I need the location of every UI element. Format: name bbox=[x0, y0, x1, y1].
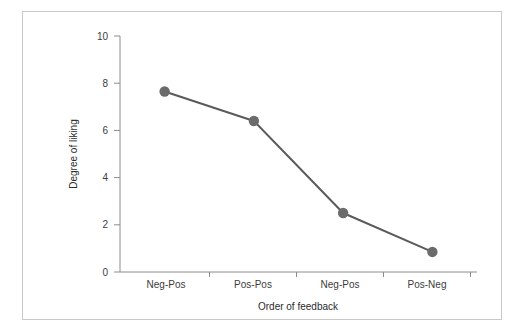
data-series-markers bbox=[159, 86, 437, 257]
x-tick-label-1: Neg-Pos bbox=[147, 279, 186, 290]
x-axis-title: Order of feedback bbox=[258, 301, 339, 312]
y-tick-label-0: 0 bbox=[102, 267, 108, 278]
y-tick-label-2: 2 bbox=[102, 219, 108, 230]
x-tick-label-2: Pos-Pos bbox=[234, 279, 272, 290]
y-axis-ticks bbox=[114, 36, 120, 272]
y-tick-label-4: 4 bbox=[102, 172, 108, 183]
line-chart-plot: 10 8 6 4 2 0 Neg-Pos Pos-Pos Neg-Pos Pos… bbox=[0, 0, 523, 335]
data-point-marker bbox=[427, 247, 437, 257]
x-axis-ticks bbox=[210, 272, 471, 277]
data-series-line bbox=[165, 91, 433, 251]
y-tick-label-10: 10 bbox=[97, 31, 109, 42]
y-tick-label-8: 8 bbox=[102, 78, 108, 89]
data-point-marker bbox=[249, 116, 259, 126]
figure-container: 10 8 6 4 2 0 Neg-Pos Pos-Pos Neg-Pos Pos… bbox=[0, 0, 523, 335]
data-point-marker bbox=[338, 208, 348, 218]
x-tick-label-4: Pos-Neg bbox=[408, 279, 447, 290]
x-tick-label-3: Neg-Pos bbox=[321, 279, 360, 290]
data-point-marker bbox=[159, 86, 169, 96]
y-tick-label-6: 6 bbox=[102, 125, 108, 136]
y-axis-title: Degree of liking bbox=[68, 119, 79, 188]
